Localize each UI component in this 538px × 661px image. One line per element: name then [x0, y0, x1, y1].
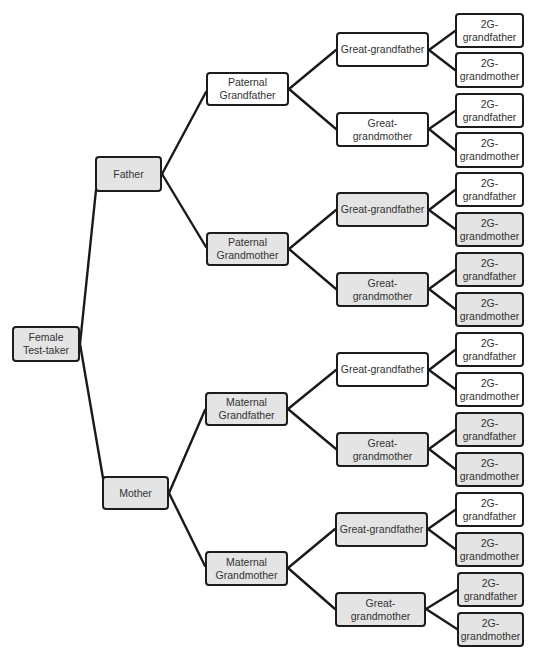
node-mgm: Maternal Grandmother: [205, 551, 288, 586]
node-g2_15: 2G- grandfather: [457, 572, 524, 607]
node-label: 2G- grandmother: [460, 57, 520, 83]
node-mother: Mother: [102, 476, 169, 510]
node-mgf: Maternal Grandfather: [205, 392, 288, 426]
connector-gg3-to-g2_6: [429, 210, 455, 229]
node-g2_9: 2G- grandfather: [455, 332, 524, 367]
node-g2_8: 2G- grandmother: [455, 292, 524, 327]
connector-mother-to-mgf: [169, 410, 205, 493]
node-label: 2G- grandfather: [463, 98, 517, 124]
node-label: Great-grandmother: [340, 437, 425, 463]
node-g2_13: 2G- grandfather: [455, 492, 524, 527]
node-label: 2G- grandfather: [463, 337, 517, 363]
node-g2_1: 2G- grandfather: [455, 13, 524, 48]
node-label: Great-grandfather: [341, 43, 424, 56]
node-father: Father: [95, 156, 162, 192]
node-gg1: Great-grandfather: [336, 32, 429, 67]
node-label: Mother: [119, 487, 152, 500]
node-label: Great-grandfather: [341, 363, 424, 376]
connector-father-to-pgf: [162, 92, 206, 174]
connector-gg5-to-g2_9: [429, 350, 455, 370]
node-label: 2G- grandfather: [463, 417, 517, 443]
node-g2_4: 2G- grandmother: [455, 132, 524, 168]
node-label: Great-grandfather: [340, 523, 423, 536]
node-label: Great-grandfather: [341, 203, 424, 216]
connector-gg1-to-g2_1: [429, 31, 455, 50]
node-gg3: Great-grandfather: [336, 192, 429, 227]
node-gg4: Great-grandmother: [336, 272, 429, 307]
node-label: 2G- grandfather: [463, 257, 517, 283]
node-gg2: Great-grandmother: [336, 112, 429, 147]
node-gg5: Great-grandfather: [336, 352, 429, 387]
node-label: 2G- grandmother: [460, 457, 520, 483]
node-g2_14: 2G- grandmother: [455, 532, 524, 567]
connector-gg6-to-g2_12: [429, 449, 455, 469]
node-self: Female Test-taker: [12, 326, 80, 362]
node-g2_2: 2G- grandmother: [455, 52, 524, 88]
connector-gg3-to-g2_5: [429, 190, 455, 210]
node-g2_10: 2G- grandmother: [455, 372, 524, 407]
connector-gg4-to-g2_8: [429, 289, 455, 309]
connector-gg5-to-g2_10: [429, 370, 455, 389]
node-label: 2G- grandmother: [460, 537, 520, 563]
connector-mgf-to-gg5: [288, 370, 336, 409]
connector-mgm-to-gg7: [288, 529, 335, 568]
node-gg6: Great-grandmother: [336, 432, 429, 467]
node-label: 2G- grandmother: [460, 137, 520, 163]
connector-gg7-to-g2_14: [428, 529, 455, 549]
connector-gg7-to-g2_13: [428, 510, 455, 529]
connector-pgf-to-gg1: [289, 50, 336, 89]
node-label: Father: [113, 168, 143, 181]
pedigree-diagram: Female Test-takerFatherMotherPaternal Gr…: [0, 0, 538, 661]
node-g2_16: 2G- grandmother: [457, 612, 524, 647]
connector-mgm-to-gg8: [288, 568, 335, 609]
connector-father-to-pgm: [162, 174, 206, 247]
connector-mother-to-mgm: [169, 493, 205, 566]
connector-self-to-mother: [80, 344, 103, 478]
connector-gg4-to-g2_7: [429, 270, 455, 289]
node-g2_6: 2G- grandmother: [455, 212, 524, 247]
connector-gg2-to-g2_4: [429, 129, 455, 150]
node-label: 2G- grandfather: [463, 177, 517, 203]
node-label: 2G- grandfather: [463, 497, 517, 523]
connector-self-to-father: [80, 190, 96, 344]
connector-pgf-to-gg2: [289, 89, 336, 129]
connector-pgm-to-gg3: [289, 210, 336, 249]
node-label: Great-grandmother: [339, 597, 422, 623]
connector-gg8-to-g2_15: [426, 590, 457, 609]
connector-gg8-to-g2_16: [426, 609, 457, 629]
node-label: 2G- grandmother: [460, 377, 520, 403]
node-g2_12: 2G- grandmother: [455, 452, 524, 487]
node-label: Great-grandmother: [340, 117, 425, 143]
node-pgm: Paternal Grandmother: [206, 232, 289, 266]
node-label: Great-grandmother: [340, 277, 425, 303]
node-g2_3: 2G- grandfather: [455, 93, 524, 128]
node-label: 2G- grandfather: [464, 577, 518, 603]
node-gg7: Great-grandfather: [335, 512, 428, 547]
connector-gg1-to-g2_2: [429, 50, 455, 70]
node-g2_5: 2G- grandfather: [455, 172, 524, 207]
node-gg8: Great-grandmother: [335, 592, 426, 627]
connector-gg2-to-g2_3: [429, 111, 455, 129]
connector-pgm-to-gg4: [289, 249, 336, 289]
node-label: Maternal Grandfather: [218, 396, 274, 422]
connector-gg6-to-g2_11: [429, 430, 455, 449]
node-label: Paternal Grandmother: [217, 236, 279, 262]
node-label: Paternal Grandfather: [219, 76, 275, 102]
node-label: Maternal Grandmother: [216, 556, 278, 582]
node-label: 2G- grandmother: [460, 217, 520, 243]
node-pgf: Paternal Grandfather: [206, 72, 289, 106]
node-label: 2G- grandmother: [461, 617, 521, 643]
node-label: Female Test-taker: [23, 331, 69, 357]
node-label: 2G- grandmother: [460, 297, 520, 323]
node-g2_11: 2G- grandfather: [455, 412, 524, 447]
connector-mgf-to-gg6: [288, 409, 336, 449]
node-g2_7: 2G- grandfather: [455, 252, 524, 287]
node-label: 2G- grandfather: [463, 18, 517, 44]
